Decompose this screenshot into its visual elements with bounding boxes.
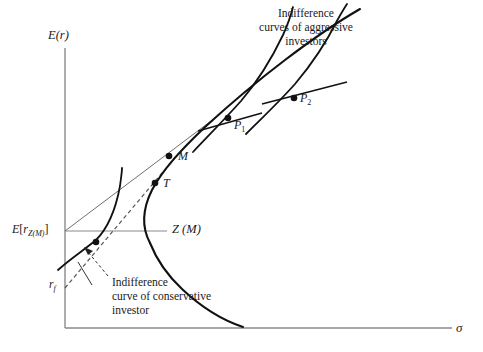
point-label-p1-sub: 1: [241, 125, 245, 134]
leader-line-conservative-curve: [88, 252, 108, 276]
point-marker-m: [166, 153, 173, 160]
point-marker-p2: [291, 95, 298, 102]
point-label-m: M: [178, 149, 188, 163]
annotation-conservative-investor: Indifference curve of conservative inves…: [112, 276, 247, 317]
risk-free-rate-label: rf: [49, 278, 56, 294]
leader-line-annotation: [78, 262, 92, 285]
zero-beta-tangent-line: [65, 118, 215, 231]
point-marker-p1: [225, 115, 232, 122]
arrowhead-conservative: [84, 247, 93, 255]
point-label-t: T: [163, 176, 170, 190]
zero-beta-return-bracket-close: ]: [44, 222, 48, 236]
point-label-p1: P1: [234, 118, 245, 135]
zero-beta-return-subscript: Z(M): [28, 229, 44, 238]
zm-portfolio-label: Z (M): [172, 222, 201, 237]
risk-free-rate-sub: f: [53, 284, 55, 293]
point-marker-zero-beta-tangency: [93, 239, 100, 246]
zero-beta-return-label: E[rZ(M)]: [12, 222, 48, 238]
y-axis-label: E(r): [48, 28, 69, 43]
point-label-p2: P2: [300, 91, 311, 108]
point-marker-t: [152, 180, 159, 187]
annotation-aggressive-investors: Indifference curves of aggressive invest…: [243, 7, 369, 48]
efficient-frontier-figure: E(r) σ E[rZ(M)] Z (M) rf M T P1 P2 Indif…: [0, 0, 483, 352]
point-label-p2-sub: 2: [307, 98, 311, 107]
x-axis-label: σ: [456, 320, 462, 335]
